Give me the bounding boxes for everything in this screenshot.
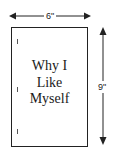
binding-mark	[17, 129, 18, 134]
width-label: 6"	[44, 11, 56, 21]
height-label: 9"	[98, 81, 106, 93]
binding-mark	[17, 39, 18, 44]
book-title-line-2: Like	[12, 75, 87, 92]
book-title: Why I Like Myself	[12, 58, 87, 108]
book-dimension-diagram: 6" 9" Why I Like Myself	[0, 0, 119, 158]
book-title-line-3: Myself	[12, 91, 87, 108]
book-cover: Why I Like Myself	[11, 27, 88, 147]
book-title-line-1: Why I	[12, 58, 87, 75]
